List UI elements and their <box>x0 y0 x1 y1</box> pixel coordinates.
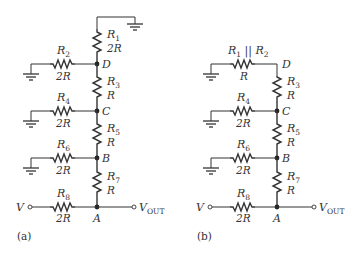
label-r1-parallel-r2: R1 || R2 <box>227 44 269 59</box>
value-r5: R <box>106 136 115 148</box>
label-r6: R6 <box>56 138 70 153</box>
value-r7: R <box>106 184 115 196</box>
resistor-r4 <box>50 107 75 115</box>
resistor-r4 <box>230 107 255 115</box>
label-r3: R3 <box>286 75 300 90</box>
ground-icon <box>23 121 39 127</box>
circuit-a: R1 2R D R2 2R R3 R C <box>16 17 164 242</box>
value-r1: 2R <box>106 42 122 54</box>
label-node-d: D <box>281 58 291 71</box>
label-node-d: D <box>101 58 111 71</box>
label-r8: R8 <box>236 187 250 202</box>
wire <box>255 64 277 76</box>
value-r3: R <box>106 89 115 101</box>
resistor-r5 <box>93 111 101 158</box>
value-r8: 2R <box>235 212 251 224</box>
value-r7: R <box>286 184 295 196</box>
resistor-r8 <box>230 203 255 211</box>
label-r4: R4 <box>56 91 70 106</box>
resistor-r1 <box>93 29 101 64</box>
label-r5: R5 <box>106 122 120 137</box>
label-vout: VOUT <box>319 201 344 216</box>
ground-icon <box>23 168 39 174</box>
circuit-diagrams: R1 2R D R2 2R R3 R C <box>0 0 361 255</box>
output-terminal <box>312 205 316 209</box>
resistor-r6 <box>50 154 75 162</box>
value-r8: 2R <box>55 212 71 224</box>
label-node-c: C <box>102 105 111 118</box>
label-node-c: C <box>282 105 291 118</box>
value-r2: 2R <box>55 70 71 82</box>
caption-b: (b) <box>197 230 212 242</box>
caption-a: (a) <box>17 230 31 242</box>
ground-icon <box>203 74 219 80</box>
resistor-r3 <box>273 76 281 111</box>
value-r5: R <box>286 136 295 148</box>
wire <box>211 111 230 121</box>
label-r7: R7 <box>286 170 300 185</box>
resistor-r8 <box>50 203 75 211</box>
value-r3: R <box>286 89 295 101</box>
label-r6: R6 <box>236 138 250 153</box>
wire <box>211 64 230 74</box>
resistor-r6 <box>230 154 255 162</box>
wire <box>31 111 50 121</box>
value-r4: 2R <box>55 117 71 129</box>
circuit-b: D R1 || R2 R R3 R C R4 <box>196 44 344 242</box>
wire <box>211 158 230 168</box>
label-r8: R8 <box>56 187 70 202</box>
label-r7: R7 <box>106 170 120 185</box>
label-node-a: A <box>92 212 101 225</box>
label-input-v: V <box>16 201 25 214</box>
value-r1-parallel-r2: R <box>239 70 248 82</box>
value-r6: 2R <box>235 164 251 176</box>
resistor-r2 <box>50 60 75 68</box>
wire-top-a <box>97 17 135 29</box>
resistor-r7 <box>93 158 101 207</box>
wire <box>31 64 50 74</box>
input-terminal <box>28 205 32 209</box>
value-r4: 2R <box>235 117 251 129</box>
resistor-r7 <box>273 158 281 207</box>
label-node-b: B <box>101 152 110 165</box>
wire <box>31 158 50 168</box>
label-r5: R5 <box>286 122 300 137</box>
input-terminal <box>208 205 212 209</box>
label-vout: VOUT <box>139 201 164 216</box>
label-r2: R2 <box>56 44 70 59</box>
label-node-a: A <box>272 212 281 225</box>
ground-icon <box>203 121 219 127</box>
resistor-r5 <box>273 111 281 158</box>
ground-icon <box>203 168 219 174</box>
label-node-b: B <box>281 152 290 165</box>
resistor-r1-parallel-r2 <box>230 60 255 68</box>
label-r3: R3 <box>106 75 120 90</box>
ground-icon <box>23 74 39 80</box>
output-terminal <box>132 205 136 209</box>
label-r4: R4 <box>236 91 250 106</box>
value-r6: 2R <box>55 164 71 176</box>
label-r1: R1 <box>106 28 120 43</box>
label-input-v: V <box>196 201 205 214</box>
ground-icon <box>127 24 143 30</box>
resistor-r3 <box>93 64 101 111</box>
